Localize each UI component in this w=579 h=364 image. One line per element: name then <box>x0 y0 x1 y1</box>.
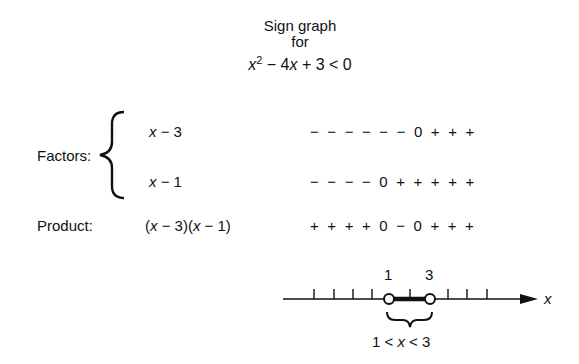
point-label-1: 1 <box>384 266 392 283</box>
solution-text: 1 < x < 3 <box>372 333 430 350</box>
open-point-1 <box>384 294 394 304</box>
axis-label-x: x <box>544 290 552 307</box>
factor-2-signs: − − − − 0 + + + + + <box>310 173 477 190</box>
diagram-graphics <box>0 0 579 364</box>
product-expr: (x − 3)(x − 1) <box>145 217 231 234</box>
point-label-3: 3 <box>425 266 433 283</box>
factor-2-expr: x − 1 <box>149 173 182 190</box>
axis-arrow-icon <box>520 294 538 304</box>
product-signs: + + + + 0 − 0 + + + <box>310 217 476 234</box>
factor-1-signs: − − − − − − 0 + + + <box>310 123 477 140</box>
product-label: Product: <box>37 217 93 234</box>
factors-brace-icon <box>100 112 124 198</box>
open-point-3 <box>425 294 435 304</box>
solution-brace-icon <box>387 312 432 327</box>
factor-1-expr: x − 3 <box>149 123 182 140</box>
